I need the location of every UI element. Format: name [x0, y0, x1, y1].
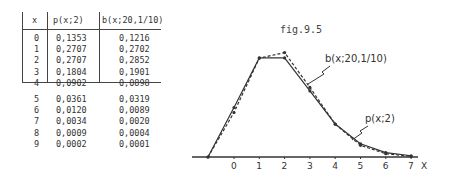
poisson-line	[208, 58, 411, 157]
distribution-chart: 01234567Xb(x;20,1/10)p(x;2)	[0, 0, 450, 180]
binomial-line	[208, 53, 411, 157]
x-tick-label: 7	[408, 161, 414, 171]
data-point	[384, 152, 387, 155]
x-tick-label: 4	[332, 161, 338, 171]
data-point	[334, 123, 337, 126]
x-tick-label: 2	[282, 161, 288, 171]
data-point	[308, 86, 311, 89]
data-point	[359, 144, 362, 147]
x-tick-label: 1	[256, 161, 262, 171]
data-point	[283, 51, 286, 54]
x-axis-label: X	[421, 161, 427, 171]
x-tick-label: 5	[358, 161, 364, 171]
data-point	[410, 155, 413, 158]
data-point	[283, 56, 286, 59]
poisson-pointer	[352, 126, 368, 140]
x-tick-label: 3	[307, 161, 313, 171]
poisson-label: p(x;2)	[365, 113, 395, 124]
data-point	[308, 89, 311, 92]
x-tick-label: 0	[231, 161, 237, 171]
data-point	[232, 106, 235, 109]
x-tick-label: 6	[383, 161, 389, 171]
data-point	[206, 155, 209, 158]
data-point	[258, 57, 261, 60]
binomial-pointer	[308, 66, 330, 84]
data-point	[232, 111, 235, 114]
binomial-label: b(x;20,1/10)	[325, 53, 387, 64]
